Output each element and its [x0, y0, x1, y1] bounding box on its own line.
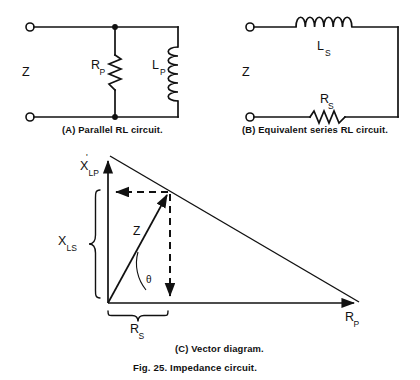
label-rs-subscript-b: S [328, 101, 334, 111]
label-ls-subscript: S [325, 48, 331, 58]
panel-b-series-rl-circuit: Z L S R S (B) Equivalent series RL circu… [242, 17, 398, 135]
label-z-b: Z [242, 65, 250, 79]
terminal-b-bottom [246, 113, 254, 121]
terminal-a-top [26, 23, 34, 31]
label-lp-symbol: L [152, 58, 159, 72]
caption-panel-b: (B) Equivalent series RL circuit. [242, 124, 388, 135]
brace-r-s [108, 311, 168, 322]
panel-c-vector-diagram: ' X LP X LS Z θ R S R P (C) Vector diagr… [58, 152, 360, 354]
resistor-rs-symbol [310, 111, 345, 123]
label-vector-z: Z [133, 224, 140, 238]
caption-panel-a: (A) Parallel RL circuit. [62, 124, 163, 135]
label-r-p-axis-subscript: P [354, 319, 360, 329]
inductor-lp-symbol [168, 47, 178, 101]
caption-panel-c: (C) Vector diagram. [175, 343, 264, 354]
terminal-a-bottom [26, 113, 34, 121]
label-x-lp-subscript: LP [89, 168, 100, 178]
figure-impedance-circuit: Z R P L P (A) Parallel RL circuit. Z L S… [0, 0, 420, 380]
label-lp-subscript: P [160, 67, 166, 77]
figure-canvas: Z R P L P (A) Parallel RL circuit. Z L S… [0, 0, 420, 380]
label-rp-subscript: P [100, 67, 106, 77]
resistor-rp-symbol [109, 55, 121, 90]
terminal-b-top [246, 23, 254, 31]
label-x-ls-subscript: LS [67, 243, 78, 253]
label-z-a: Z [22, 65, 30, 79]
figure-caption: Fig. 25. Impedance circuit. [133, 362, 257, 373]
vector-z [108, 195, 167, 303]
label-ls-symbol: L [317, 39, 324, 53]
inductor-ls-symbol [296, 17, 352, 27]
panel-a-parallel-rl-circuit: Z R P L P (A) Parallel RL circuit. [22, 23, 178, 135]
brace-x-ls [89, 190, 100, 298]
label-theta: θ [146, 274, 152, 285]
angle-theta-arc [136, 252, 146, 290]
label-r-s-subscript: S [139, 331, 145, 341]
